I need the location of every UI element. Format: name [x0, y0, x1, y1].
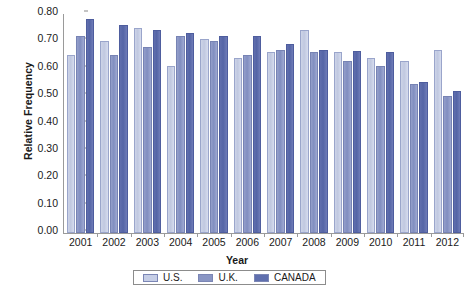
x-axis-tick-label: 2009 — [331, 236, 364, 248]
bar-us-2004 — [167, 66, 175, 233]
x-axis-title: Year — [0, 254, 474, 266]
bar-us-2003 — [134, 28, 142, 233]
bar-canada-2002 — [119, 25, 127, 233]
bar-uk-2009 — [343, 61, 351, 233]
y-axis-tick-mark — [84, 11, 88, 12]
bar-uk-2010 — [376, 66, 384, 233]
bar-us-2009 — [334, 52, 342, 233]
y-axis-tick-label: 0.20 — [24, 169, 58, 181]
y-axis-tick-label: 0.00 — [24, 224, 58, 236]
bar-us-2011 — [400, 61, 408, 233]
bar-group-2012 — [431, 14, 464, 233]
y-axis-tick-label: 0.10 — [24, 197, 58, 209]
bar-canada-2007 — [286, 44, 294, 233]
bar-uk-2011 — [410, 84, 418, 233]
bar-us-2010 — [367, 58, 375, 233]
bar-canada-2008 — [319, 50, 327, 233]
legend-item-canada[interactable]: CANADA — [254, 273, 316, 283]
y-axis-tick-label: 0.60 — [24, 60, 58, 72]
bar-group-2009 — [331, 14, 364, 233]
x-axis-tick-label: 2006 — [231, 236, 264, 248]
x-axis-tick-label: 2002 — [97, 236, 130, 248]
bar-canada-2009 — [353, 51, 361, 233]
legend-swatch-icon — [143, 274, 158, 282]
bar-canada-2010 — [386, 52, 394, 233]
bar-canada-2005 — [219, 36, 227, 233]
bar-us-2012 — [434, 50, 442, 233]
plot-area — [64, 14, 464, 233]
bar-group-2003 — [131, 14, 164, 233]
bar-us-2002 — [100, 41, 108, 233]
bar-canada-2011 — [419, 82, 427, 233]
y-axis-tick-label: 0.80 — [24, 5, 58, 17]
bar-uk-2012 — [443, 96, 451, 233]
bar-uk-2001 — [76, 36, 84, 233]
x-axis-tick-label: 2003 — [131, 236, 164, 248]
bar-group-2006 — [231, 14, 264, 233]
bar-us-2008 — [300, 30, 308, 233]
y-axis-tick-label: 0.30 — [24, 142, 58, 154]
bar-us-2001 — [67, 55, 75, 233]
y-axis-tick-label: 0.70 — [24, 32, 58, 44]
legend-item-us[interactable]: U.S. — [143, 273, 182, 283]
bar-canada-2006 — [253, 36, 261, 233]
bar-group-2001 — [64, 14, 97, 233]
bar-canada-2001 — [86, 19, 94, 233]
bar-chart: Relative Frequency 0.800.700.600.500.400… — [0, 0, 474, 302]
y-axis-tick-label: 0.40 — [24, 115, 58, 127]
x-axis-tick-label: 2012 — [431, 236, 464, 248]
bar-group-2004 — [164, 14, 197, 233]
x-axis-tick-label: 2004 — [164, 236, 197, 248]
legend-item-uk[interactable]: U.K. — [198, 273, 237, 283]
x-axis-tick-label: 2005 — [197, 236, 230, 248]
bar-uk-2006 — [243, 55, 251, 233]
bar-uk-2007 — [276, 50, 284, 233]
bar-us-2005 — [200, 39, 208, 233]
bar-canada-2004 — [186, 33, 194, 233]
bar-uk-2005 — [210, 41, 218, 233]
x-axis-tick-label: 2007 — [264, 236, 297, 248]
legend-label: U.S. — [163, 273, 182, 283]
y-axis-tick-label: 0.50 — [24, 87, 58, 99]
bar-us-2007 — [267, 52, 275, 233]
bar-group-2011 — [397, 14, 430, 233]
bar-group-2010 — [364, 14, 397, 233]
bar-uk-2004 — [176, 36, 184, 233]
x-axis-tick-label: 2011 — [397, 236, 430, 248]
legend-swatch-icon — [198, 274, 213, 282]
y-axis-tick-labels: 0.800.700.600.500.400.300.200.100.00 — [24, 11, 58, 233]
bar-group-2008 — [297, 14, 330, 233]
bar-uk-2003 — [143, 47, 151, 233]
x-axis-tick-label: 2010 — [364, 236, 397, 248]
legend-swatch-icon — [254, 274, 269, 282]
bar-group-2005 — [197, 14, 230, 233]
bar-uk-2002 — [110, 55, 118, 233]
bar-group-2002 — [97, 14, 130, 233]
bar-us-2006 — [234, 58, 242, 233]
bar-group-2007 — [264, 14, 297, 233]
chart-legend: U.S.U.K.CANADA — [133, 270, 326, 285]
legend-label: U.K. — [218, 273, 237, 283]
x-axis-tick-labels: 2001200220032004200520062007200820092010… — [64, 236, 464, 252]
bar-canada-2012 — [453, 91, 461, 233]
bar-uk-2008 — [310, 52, 318, 233]
bar-canada-2003 — [153, 30, 161, 233]
legend-label: CANADA — [274, 273, 316, 283]
x-axis-tick-label: 2008 — [297, 236, 330, 248]
x-axis-tick-label: 2001 — [64, 236, 97, 248]
